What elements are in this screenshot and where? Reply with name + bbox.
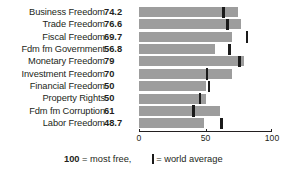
world-average-marker xyxy=(222,7,224,18)
most-free-note: 100 = most free, xyxy=(64,151,131,167)
bar-track xyxy=(139,118,272,128)
most-free-note-text: = most free, xyxy=(80,154,132,164)
chart-row: Fdm fm Corruption61 xyxy=(0,105,283,117)
world-average-marker xyxy=(246,31,248,42)
world-average-marker xyxy=(238,56,240,67)
chart-row: Monetary Freedom79 xyxy=(0,55,283,67)
world-average-marker xyxy=(206,68,208,79)
bar-fill xyxy=(139,32,232,42)
bar-track xyxy=(139,32,272,42)
world-average-marker xyxy=(228,44,230,55)
bar-fill xyxy=(139,94,206,104)
bar-track xyxy=(139,81,272,91)
world-average-marker xyxy=(226,19,228,30)
row-label: Trade Freedom xyxy=(43,18,105,30)
chart-row: Fdm fm Government56.8 xyxy=(0,43,283,55)
axis-tick-label: 50 xyxy=(201,133,211,143)
row-value: 56.8 xyxy=(104,43,134,55)
axis-tick xyxy=(271,129,272,133)
chart-footer: 100 = most free, = world average xyxy=(0,151,283,167)
world-average-marker xyxy=(199,93,201,104)
bar-fill xyxy=(139,44,215,54)
world-average-marker xyxy=(220,118,222,129)
bar-fill xyxy=(139,118,204,128)
row-value: 61 xyxy=(104,105,134,117)
chart-row: Fiscal Freedom69.7 xyxy=(0,31,283,43)
chart-row: Trade Freedom76.6 xyxy=(0,18,283,30)
row-label: Investment Freedom xyxy=(22,68,105,80)
legend-world-average: = world average xyxy=(152,151,223,167)
row-label: Property Rights xyxy=(42,92,105,104)
chart-row: Business Freedom74.2 xyxy=(0,6,283,18)
row-label: Fdm fm Government xyxy=(21,43,105,55)
bar-track xyxy=(139,94,272,104)
bar-track xyxy=(139,7,272,17)
axis-tick xyxy=(139,129,140,133)
chart-row: Labor Freedom48.7 xyxy=(0,117,283,129)
row-label: Labor Freedom xyxy=(43,117,105,129)
world-average-marker xyxy=(192,105,194,116)
bar-track xyxy=(139,106,272,116)
chart-row: Financial Freedom50 xyxy=(0,80,283,92)
row-value: 50 xyxy=(104,80,134,92)
axis-tick xyxy=(206,129,207,133)
bar-track xyxy=(139,44,272,54)
row-label: Fdm fm Corruption xyxy=(29,105,105,117)
row-value: 74.2 xyxy=(104,6,134,18)
world-average-marker-icon xyxy=(152,154,154,164)
bar-track xyxy=(139,19,272,29)
row-value: 48.7 xyxy=(104,117,134,129)
freedom-index-bar-chart: Business Freedom74.2Trade Freedom76.6Fis… xyxy=(0,0,283,174)
row-label: Financial Freedom xyxy=(30,80,105,92)
bar-fill xyxy=(139,69,232,79)
row-label: Fiscal Freedom xyxy=(42,31,105,43)
axis-tick-label: 0 xyxy=(137,133,142,143)
row-value: 76.6 xyxy=(104,18,134,30)
bar-fill xyxy=(139,106,220,116)
bar-fill xyxy=(139,56,244,66)
most-free-note-value: 100 xyxy=(64,154,80,164)
axis-tick-label: 100 xyxy=(265,133,279,143)
row-label: Business Freedom xyxy=(29,6,105,18)
chart-row: Investment Freedom70 xyxy=(0,68,283,80)
x-axis: 050100 xyxy=(139,131,272,151)
row-label: Monetary Freedom xyxy=(28,55,105,67)
legend-world-average-label: = world average xyxy=(156,154,222,164)
row-value: 79 xyxy=(104,55,134,67)
bar-track xyxy=(139,69,272,79)
row-value: 69.7 xyxy=(104,31,134,43)
chart-row: Property Rights50 xyxy=(0,92,283,104)
bar-track xyxy=(139,56,272,66)
world-average-marker xyxy=(208,81,210,92)
row-value: 70 xyxy=(104,68,134,80)
bar-fill xyxy=(139,81,206,91)
row-value: 50 xyxy=(104,92,134,104)
